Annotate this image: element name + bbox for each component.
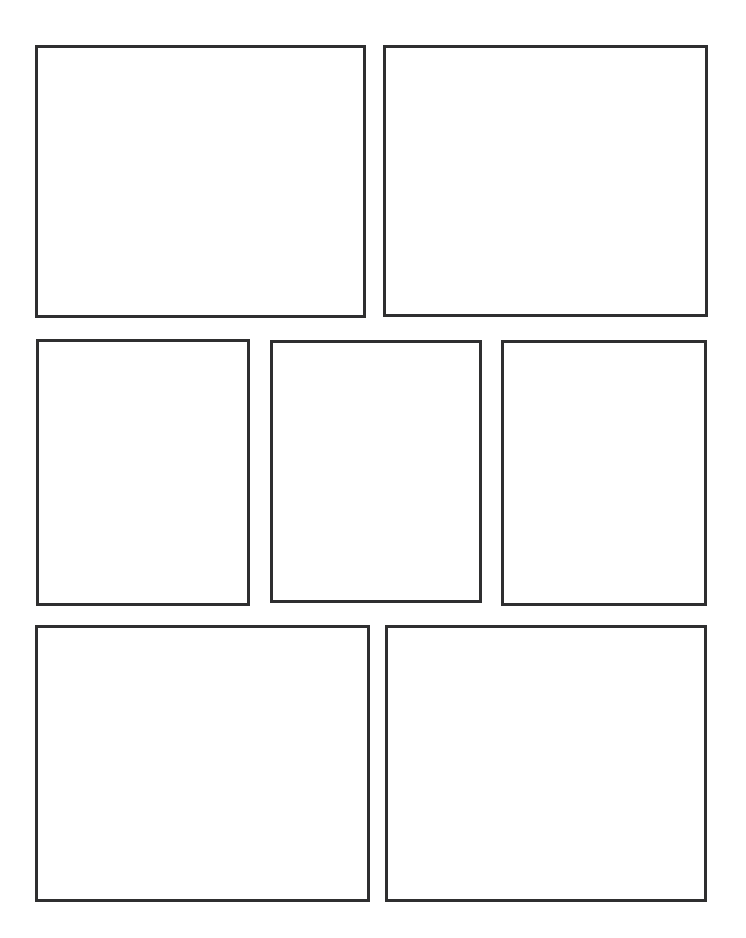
comic-panel-4[interactable] bbox=[270, 340, 482, 603]
comic-panel-1[interactable] bbox=[35, 45, 366, 318]
comic-panel-3[interactable] bbox=[36, 339, 250, 606]
comic-panel-3-label bbox=[39, 342, 247, 603]
comic-page bbox=[0, 0, 746, 938]
comic-panel-2[interactable] bbox=[383, 45, 708, 317]
comic-panel-5[interactable] bbox=[501, 340, 707, 606]
comic-panel-6-label bbox=[38, 628, 367, 899]
comic-panel-5-label bbox=[504, 343, 704, 603]
comic-panel-2-label bbox=[386, 48, 705, 314]
comic-panel-4-label bbox=[273, 343, 479, 600]
comic-panel-7-label bbox=[388, 628, 704, 899]
comic-panel-7[interactable] bbox=[385, 625, 707, 902]
comic-panel-6[interactable] bbox=[35, 625, 370, 902]
comic-panel-1-label bbox=[38, 48, 363, 315]
